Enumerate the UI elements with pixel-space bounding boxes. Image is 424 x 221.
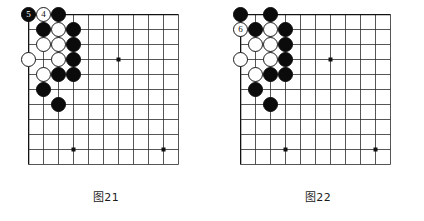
stone-white bbox=[263, 52, 278, 67]
stone-white bbox=[36, 37, 51, 52]
stone-move-number: 6 bbox=[234, 23, 247, 36]
go-board-21[interactable]: 54 bbox=[28, 14, 188, 174]
stone-white bbox=[36, 67, 51, 82]
stone-white bbox=[248, 67, 263, 82]
star-point bbox=[374, 148, 378, 152]
figure-22: 6 图22 bbox=[212, 0, 424, 221]
stone-black bbox=[66, 37, 81, 52]
stone-move-number: 5 bbox=[22, 8, 35, 21]
stone-white bbox=[51, 22, 66, 37]
stone-black bbox=[66, 67, 81, 82]
go-diagram-page: 54 图21 6 图22 bbox=[0, 0, 424, 221]
stone-black bbox=[248, 82, 263, 97]
stone-white bbox=[21, 52, 36, 67]
go-board-22[interactable]: 6 bbox=[240, 14, 400, 174]
star-point bbox=[329, 58, 333, 62]
stone-black bbox=[51, 97, 66, 112]
star-point bbox=[117, 58, 121, 62]
figure-21: 54 图21 bbox=[0, 0, 212, 221]
stone-black bbox=[51, 67, 66, 82]
stone-black bbox=[278, 67, 293, 82]
star-point bbox=[72, 148, 76, 152]
stone-black bbox=[51, 7, 66, 22]
stone-black bbox=[248, 22, 263, 37]
figure-caption-22: 图22 bbox=[212, 188, 424, 204]
board-grid-21: 54 bbox=[28, 14, 188, 174]
stone-white-move-4: 4 bbox=[36, 7, 51, 22]
stone-white bbox=[51, 37, 66, 52]
stone-black bbox=[66, 22, 81, 37]
stone-black bbox=[278, 22, 293, 37]
stone-black bbox=[263, 67, 278, 82]
stone-white bbox=[233, 52, 248, 67]
stone-black bbox=[278, 52, 293, 67]
stone-black bbox=[36, 22, 51, 37]
stone-black bbox=[233, 7, 248, 22]
stone-black bbox=[263, 7, 278, 22]
stone-white bbox=[263, 37, 278, 52]
board-grid-22: 6 bbox=[240, 14, 400, 174]
star-point bbox=[162, 148, 166, 152]
stone-white-move-6: 6 bbox=[233, 22, 248, 37]
stone-black bbox=[36, 82, 51, 97]
stone-black-move-5: 5 bbox=[21, 7, 36, 22]
stone-move-number: 4 bbox=[37, 8, 50, 21]
stone-black bbox=[278, 37, 293, 52]
figure-caption-21: 图21 bbox=[0, 188, 212, 204]
star-point bbox=[284, 148, 288, 152]
stone-black bbox=[66, 52, 81, 67]
stone-white bbox=[263, 22, 278, 37]
stone-white bbox=[248, 37, 263, 52]
stone-black bbox=[263, 97, 278, 112]
stone-white bbox=[51, 52, 66, 67]
